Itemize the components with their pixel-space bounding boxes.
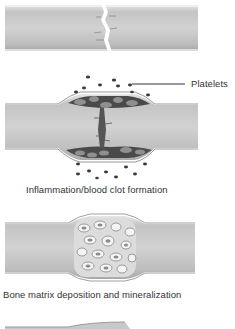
matrix-caption: Bone matrix deposition and mineralizatio… (3, 289, 181, 300)
fractured-bone (5, 2, 198, 52)
remodeled-bone-partial (5, 322, 130, 329)
fracture-healing-diagram (0, 0, 235, 329)
matrix-bone (5, 214, 195, 281)
inflamed-bone (5, 92, 198, 162)
platelets-label: Platelets (191, 78, 228, 89)
inflammation-caption: Inflammation/blood clot formation (26, 184, 168, 195)
